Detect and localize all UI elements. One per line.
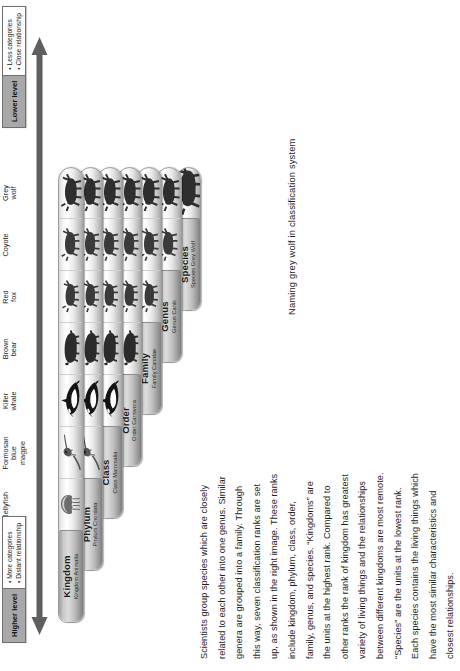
magpie-icon: [60, 426, 82, 478]
column-header-grey-wolf: Grey wolf: [2, 167, 19, 219]
rank-label-kingdom: KingdomKingdom Animalia: [59, 530, 83, 622]
paragraph-line: include kingdom, phylum, class, order,: [284, 11, 302, 659]
figure-caption: Naming grey wolf in classification syste…: [286, 138, 297, 315]
killer-whale-icon: [60, 374, 82, 426]
paragraph-line: Scientists group species which are close…: [196, 11, 214, 659]
paragraph-line: this way, seven classification ranks are…: [249, 11, 267, 659]
grey-wolf-icon: [60, 167, 82, 218]
higher-level-title: Higher level: [3, 588, 25, 642]
classification-diagram: JellyfishFormosan blue magpieKiller whal…: [0, 0, 196, 671]
paragraph-line: genera are grouped into a family. Throug…: [231, 11, 249, 659]
column-header-brown-bear: Brown bear: [2, 323, 19, 375]
rank-scientific-name: Order Carnivora: [131, 400, 138, 441]
column-header-red-fox: Red fox: [2, 271, 19, 323]
paragraph-line: “Species” are the units at the lowest ra…: [390, 11, 408, 659]
lower-level-bullet-1: • Close relationship: [14, 13, 23, 70]
rank-bar-kingdom: KingdomKingdom Animalia: [58, 167, 84, 623]
paragraph-line: other ranks the rank of kingdom has grea…: [337, 11, 355, 659]
brown-bear-icon: [60, 322, 82, 374]
rank-scientific-name: Genus Canis: [171, 300, 178, 333]
lower-level-title: Lower level: [3, 75, 25, 127]
paragraph-line: related to each other into one genus. Si…: [214, 11, 232, 659]
lower-level-bullet-0: • Less categories: [5, 13, 14, 70]
higher-level-bullet-0: • More categories: [5, 523, 14, 583]
lower-level-callout: Lower level • Less categories • Close re…: [2, 6, 26, 128]
jellyfish-icon: [60, 478, 82, 530]
rank-scientific-name: Species Grey Wolf: [190, 241, 197, 288]
rank-scientific-name: Family Canidae: [151, 349, 158, 389]
column-header-magpie: Formosan blue magpie: [2, 427, 27, 479]
paragraph-line: have the most similar characteristics an…: [425, 11, 443, 659]
column-header-coyote: Coyote: [2, 219, 10, 271]
column-header-killer-whale: Killer whale: [2, 375, 19, 427]
paragraph-text: Scientists group species which are close…: [196, 11, 460, 659]
lower-level-bullets: • Less categories • Close relationship: [3, 7, 25, 75]
rank-name: Kingdom: [62, 555, 72, 597]
higher-level-bullets: • More categories • Distant relationship: [3, 517, 25, 588]
paragraph-line: variety of living things and the relatio…: [354, 11, 372, 659]
rank-scientific-name: Kingdom Animalia: [73, 554, 80, 600]
rank-scientific-name: Class Mammalia: [112, 451, 119, 493]
level-range-arrow: [31, 37, 48, 635]
paragraph-line: the units at the highest rank. Compared …: [319, 11, 337, 659]
paragraph-line: Each species contains the living things …: [407, 11, 425, 659]
explanatory-paragraph: Scientists group species which are close…: [196, 11, 460, 659]
coyote-icon: [60, 218, 82, 270]
higher-level-callout: Higher level • More categories • Distant…: [2, 516, 26, 643]
paragraph-line: up, as shown in the right image. These r…: [266, 11, 284, 659]
paragraph-line: closest relationships.: [442, 11, 460, 659]
red-fox-icon: [60, 270, 82, 322]
rank-scientific-name: Phylum Chordata: [92, 503, 99, 547]
paragraph-line: between different kingdoms are most remo…: [372, 11, 390, 659]
higher-level-bullet-1: • Distant relationship: [14, 523, 23, 583]
paragraph-line: family, genus, and species. “Kingdoms” a…: [302, 11, 320, 659]
